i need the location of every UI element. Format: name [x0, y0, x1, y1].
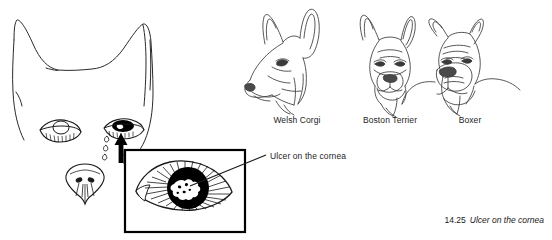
callout-label-ulcer: Ulcer on the cornea	[270, 151, 346, 161]
ulcerated-eye	[104, 119, 144, 139]
breed-portrait-boston-terrier	[360, 15, 435, 117]
breed-portrait-boxer	[429, 19, 520, 116]
figure-number: 14.25	[445, 215, 466, 225]
tear-drops	[102, 136, 108, 160]
breed-portrait-welsh-corgi	[245, 9, 319, 115]
breed-label-welsh-corgi: Welsh Corgi	[273, 115, 320, 125]
dog-head-outline	[13, 20, 153, 164]
figure-caption: 14.25Ulcer on the cornea	[445, 215, 544, 225]
breed-label-boston-terrier: Boston Terrier	[363, 115, 417, 125]
breed-label-boxer: Boxer	[459, 115, 482, 125]
normal-eye	[40, 120, 81, 142]
dog-nose	[66, 164, 104, 204]
figure-caption-text: Ulcer on the cornea	[470, 215, 544, 225]
magnified-eye-inset	[125, 150, 245, 232]
